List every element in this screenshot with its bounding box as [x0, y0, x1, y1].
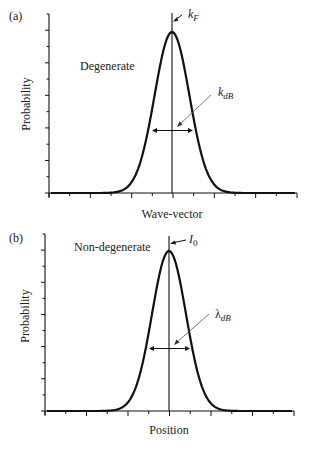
- figure: (a) Degenerate Probability Wave-vector k…: [0, 0, 311, 451]
- arrowhead-icon: [173, 17, 178, 22]
- arrowhead-icon: [185, 346, 190, 351]
- panel-a-width-symbol: kdB: [218, 85, 234, 101]
- panel-b: (b) Non-degenerate Probability Position …: [9, 231, 294, 437]
- panel-b-width-pointer: [176, 314, 209, 343]
- panel-a-center-symbol: kF: [188, 7, 199, 23]
- panel-b-x-axis-label: Position: [149, 423, 188, 437]
- arrowhead-icon: [152, 128, 157, 133]
- arrowhead-icon: [188, 128, 193, 133]
- panel-a-y-axis-label: Probability: [19, 77, 33, 130]
- panel-a-label: (a): [9, 9, 22, 23]
- panel-b-state-label: Non-degenerate: [74, 240, 151, 254]
- panel-a: (a) Degenerate Probability Wave-vector k…: [9, 7, 297, 221]
- panel-a-axes: [45, 14, 297, 198]
- arrowhead-icon: [149, 346, 154, 351]
- panel-b-axes: [41, 234, 294, 416]
- panel-b-y-axis-label: Probability: [18, 289, 32, 342]
- panel-b-label: (b): [9, 231, 23, 245]
- panel-b-center-symbol: I0: [188, 232, 198, 248]
- panel-b-width-symbol: λdB: [215, 307, 231, 323]
- panel-a-x-axis-label: Wave-vector: [142, 207, 203, 221]
- panel-a-curve: [51, 32, 295, 193]
- panel-a-state-label: Degenerate: [80, 59, 135, 73]
- arrowhead-icon: [170, 241, 176, 245]
